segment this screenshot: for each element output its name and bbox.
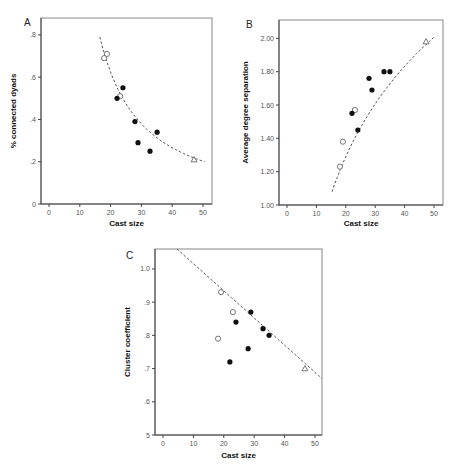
filled-circle-marker	[135, 140, 140, 145]
filled-circle-marker	[132, 119, 137, 124]
x-tick-label: 10	[190, 440, 198, 447]
plot-frame	[155, 249, 322, 435]
x-tick-label: 10	[76, 209, 84, 216]
x-tick-label: 30	[138, 209, 146, 216]
x-axis-title: Cast size	[344, 219, 379, 228]
y-tick-label: .7	[144, 365, 150, 372]
panel-b: B010203040501.001.201.401.601.802.00Cast…	[241, 19, 443, 228]
open-circle-marker	[230, 310, 235, 315]
open-circle-marker	[337, 164, 342, 169]
filled-circle-marker	[120, 85, 125, 90]
open-circle-marker	[102, 56, 107, 61]
open-circle-marker	[218, 290, 223, 295]
y-tick-label: 5	[146, 432, 150, 439]
y-tick-label: .9	[144, 299, 150, 306]
x-tick-label: 0	[285, 210, 289, 217]
x-tick-label: 20	[107, 209, 115, 216]
x-tick-label: 30	[250, 440, 258, 447]
y-tick-label: 0	[32, 201, 36, 208]
x-tick-label: 10	[313, 210, 321, 217]
x-tick-label: 40	[281, 440, 289, 447]
y-tick-label: 1.60	[260, 102, 274, 109]
open-triangle-marker	[423, 39, 429, 44]
open-circle-marker	[340, 139, 345, 144]
filled-circle-marker	[260, 326, 265, 331]
panel-letter: C	[126, 250, 133, 261]
x-tick-label: 20	[342, 210, 350, 217]
open-circle-marker	[215, 336, 220, 341]
figure: A010203040500.2.4.6.8Cast size% connecte…	[0, 0, 459, 476]
y-tick-label: .2	[30, 158, 36, 165]
y-tick-label: .4	[30, 116, 36, 123]
x-tick-label: 50	[311, 440, 319, 447]
x-tick-label: 40	[401, 210, 409, 217]
x-tick-label: 40	[168, 209, 176, 216]
filled-circle-marker	[266, 333, 271, 338]
panel-c: C010203040505.6.7.8.91.0Cast sizeCluster…	[123, 249, 322, 460]
plot-frame	[279, 20, 443, 205]
filled-circle-marker	[246, 346, 251, 351]
plot-frame	[41, 18, 212, 204]
y-tick-label: 1.00	[260, 202, 274, 209]
y-tick-label: .8	[144, 332, 150, 339]
y-tick-label: 1.80	[260, 68, 274, 75]
x-tick-label: 50	[430, 210, 438, 217]
x-axis-title: Cast size	[109, 219, 144, 228]
y-axis-title: Average degree separation	[241, 61, 250, 164]
filled-circle-marker	[387, 69, 392, 74]
x-axis-title: Cast size	[221, 451, 256, 460]
y-axis-title: Cluster coefficient	[123, 307, 132, 377]
y-tick-label: .6	[30, 74, 36, 81]
filled-circle-marker	[369, 87, 374, 92]
filled-circle-marker	[227, 359, 232, 364]
x-tick-label: 0	[47, 209, 51, 216]
filled-circle-marker	[366, 76, 371, 81]
filled-circle-marker	[381, 69, 386, 74]
y-tick-label: 1.40	[260, 135, 274, 142]
y-tick-label: 2.00	[260, 35, 274, 42]
panel-a: A010203040500.2.4.6.8Cast size% connecte…	[9, 17, 212, 228]
filled-circle-marker	[155, 130, 160, 135]
y-tick-label: 1.0	[140, 265, 150, 272]
filled-circle-marker	[147, 149, 152, 154]
filled-circle-marker	[355, 127, 360, 132]
panel-letter: A	[24, 17, 31, 28]
y-tick-label: .6	[144, 398, 150, 405]
y-tick-label: 1.20	[260, 168, 274, 175]
x-tick-label: 30	[371, 210, 379, 217]
x-tick-label: 50	[199, 209, 207, 216]
filled-circle-marker	[248, 310, 253, 315]
filled-circle-marker	[349, 111, 354, 116]
panel-letter: B	[246, 19, 253, 30]
filled-circle-marker	[114, 96, 119, 101]
fit-line	[332, 37, 435, 192]
y-axis-title: % connected dyads	[9, 73, 18, 148]
x-tick-label: 0	[161, 440, 165, 447]
open-triangle-marker	[302, 366, 308, 371]
x-tick-label: 20	[220, 440, 228, 447]
filled-circle-marker	[233, 319, 238, 324]
y-tick-label: .8	[30, 31, 36, 38]
